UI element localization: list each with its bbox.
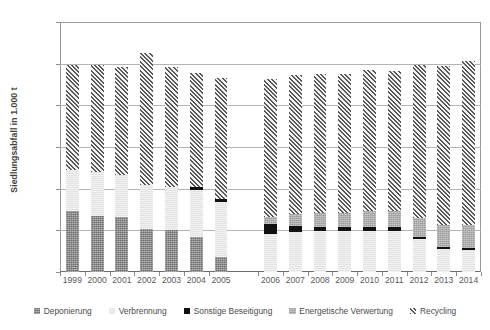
y-tick-mark <box>56 22 60 23</box>
legend-label: Recycling <box>420 306 456 316</box>
y-tick-mark <box>56 105 60 106</box>
x-axis-label-2013: 2013 <box>434 275 453 285</box>
bar-segment-verbrennung <box>264 234 277 272</box>
bar-2008 <box>314 74 327 272</box>
bar-2006 <box>264 79 277 272</box>
x-axis-label-2014: 2014 <box>459 275 478 285</box>
x-axis-label-2004: 2004 <box>187 275 206 285</box>
bar-segment-deponierung <box>215 257 228 272</box>
x-axis-label-2012: 2012 <box>410 275 429 285</box>
x-axis-label-2011: 2011 <box>385 275 403 285</box>
legend-swatch-icon <box>109 308 116 315</box>
bar-2012 <box>413 65 426 272</box>
bar-2002 <box>140 53 153 272</box>
bar-segment-energetische-verwertung <box>264 217 277 225</box>
bar-segment-recycling <box>338 74 351 213</box>
y-tick-mark <box>56 64 60 65</box>
bar-segment-verbrennung <box>437 249 450 272</box>
bar-segment-sonstige-beseitigung <box>264 224 277 234</box>
x-axis-label-2001: 2001 <box>112 275 131 285</box>
bar-segment-recycling <box>413 65 426 218</box>
x-axis-label-2002: 2002 <box>137 275 156 285</box>
bar-segment-verbrennung <box>388 231 401 272</box>
bar-segment-verbrennung <box>190 190 203 237</box>
stacked-bar-chart: Siedlungsabfall in 1.000 t 010 00020 000… <box>0 0 490 330</box>
bar-segment-verbrennung <box>462 250 475 272</box>
plot-area: 010 00020 00030 00040 00050 00060 000 <box>60 22 481 272</box>
legend-item-verbrennung[interactable]: Verbrennung <box>109 306 167 316</box>
bar-1999 <box>66 65 79 272</box>
y-tick-mark <box>56 230 60 231</box>
bar-2001 <box>115 67 128 272</box>
bar-2013 <box>437 66 450 272</box>
legend-item-deponierung[interactable]: Deponierung <box>34 306 92 316</box>
bar-segment-verbrennung <box>363 231 376 272</box>
bar-segment-recycling <box>388 71 401 211</box>
bar-segment-energetische-verwertung <box>388 211 401 227</box>
bar-segment-recycling <box>115 67 128 174</box>
bar-segment-deponierung <box>190 237 203 272</box>
bar-segment-verbrennung <box>413 239 426 272</box>
bar-2005 <box>215 78 228 272</box>
bar-segment-energetische-verwertung <box>338 213 351 228</box>
x-axis-label-1999: 1999 <box>63 275 82 285</box>
y-tick-mark <box>56 189 60 190</box>
legend-swatch-icon <box>34 308 41 315</box>
bar-segment-recycling <box>66 65 79 170</box>
bar-segment-energetische-verwertung <box>289 214 302 227</box>
bar-segment-deponierung <box>165 230 178 272</box>
x-axis-label-2008: 2008 <box>310 275 329 285</box>
bar-2014 <box>462 61 475 272</box>
x-axis-label-2010: 2010 <box>360 275 379 285</box>
bar-segment-recycling <box>314 74 327 213</box>
y-tick-mark <box>56 147 60 148</box>
bar-2009 <box>338 74 351 272</box>
bar-2007 <box>289 75 302 272</box>
legend-item-recycling[interactable]: Recycling <box>410 306 456 316</box>
bar-2000 <box>91 65 104 272</box>
x-axis-label-2007: 2007 <box>286 275 305 285</box>
bar-segment-recycling <box>215 78 228 198</box>
chart-legend: DeponierungVerbrennungSonstige Beseitigu… <box>0 306 490 316</box>
legend-label: Verbrennung <box>119 306 167 316</box>
legend-label: Sonstige Beseitigung <box>194 306 273 316</box>
bar-segment-recycling <box>91 65 104 172</box>
x-axis-label-2005: 2005 <box>211 275 230 285</box>
bar-segment-energetische-verwertung <box>363 211 376 227</box>
x-axis-label-2000: 2000 <box>88 275 107 285</box>
legend-swatch-icon <box>289 308 296 315</box>
legend-label: Energetische Verwertung <box>299 306 393 316</box>
bar-segment-recycling <box>363 70 376 211</box>
legend-item-energetische-verwertung[interactable]: Energetische Verwertung <box>289 306 393 316</box>
bar-segment-deponierung <box>115 217 128 272</box>
bar-segment-energetische-verwertung <box>437 225 450 247</box>
bar-segment-recycling <box>462 61 475 225</box>
bar-segment-verbrennung <box>140 185 153 229</box>
bar-segment-verbrennung <box>314 231 327 272</box>
bar-segment-verbrennung <box>338 231 351 272</box>
legend-swatch-icon <box>410 308 417 315</box>
bar-segment-recycling <box>140 53 153 186</box>
bar-segment-deponierung <box>140 229 153 272</box>
bar-2004 <box>190 73 203 272</box>
bar-2010 <box>363 70 376 272</box>
x-axis-label-2006: 2006 <box>261 275 280 285</box>
x-axis-labels: 1999200020012002200320042005200620072008… <box>60 275 481 291</box>
bar-segment-deponierung <box>66 211 79 272</box>
bar-segment-verbrennung <box>115 175 128 217</box>
bar-2003 <box>165 67 178 272</box>
x-tick-mark <box>481 272 482 276</box>
legend-swatch-icon <box>184 308 191 315</box>
bar-segment-recycling <box>264 79 277 217</box>
y-axis-title: Siedlungsabfall in 1.000 t <box>9 40 19 240</box>
bar-segment-deponierung <box>91 216 104 272</box>
legend-label: Deponierung <box>44 306 92 316</box>
bar-segment-recycling <box>190 73 203 187</box>
bar-segment-verbrennung <box>91 172 104 216</box>
bar-2011 <box>388 71 401 272</box>
bar-segment-energetische-verwertung <box>314 213 327 227</box>
bar-segment-energetische-verwertung <box>462 225 475 248</box>
legend-item-sonstige-beseitigung[interactable]: Sonstige Beseitigung <box>184 306 273 316</box>
x-axis-label-2003: 2003 <box>162 275 181 285</box>
bar-segment-recycling <box>437 66 450 225</box>
